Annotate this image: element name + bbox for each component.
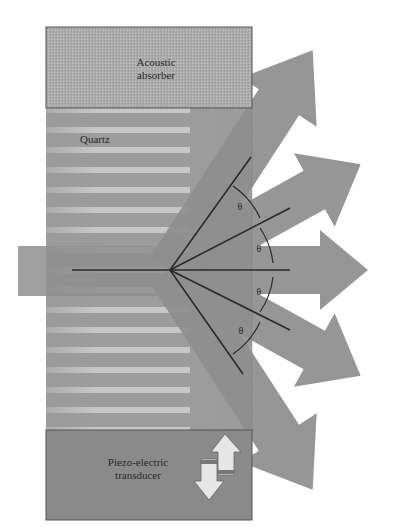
theta-label-1: θ	[238, 201, 243, 212]
quartz-label: Quartz	[80, 133, 110, 145]
absorber-label-line1: Acoustic	[136, 56, 175, 68]
piezo-electric-transducer: Piezo-electric transducer	[46, 430, 252, 520]
transducer-label-line2: transducer	[115, 469, 161, 481]
acoustic-absorber: Acoustic absorber	[46, 27, 252, 108]
transducer-label-line1: Piezo-electric	[108, 456, 169, 468]
theta-label-2: θ	[257, 243, 262, 254]
acousto-optic-modulator-diagram: Acoustic absorber Quartz Piezo-electric …	[0, 0, 393, 528]
theta-label-4: θ	[239, 325, 244, 336]
absorber-label-line2: absorber	[137, 69, 175, 81]
theta-label-3: θ	[257, 286, 262, 297]
